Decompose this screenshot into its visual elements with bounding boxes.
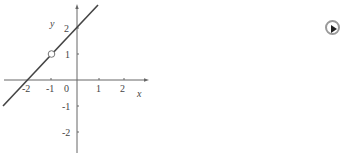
- y-tick-label: 1: [65, 49, 70, 60]
- y-tick-label: -1: [62, 101, 70, 112]
- x-tick-label: 1: [96, 83, 101, 94]
- x-tick-label: -1: [46, 83, 54, 94]
- play-button[interactable]: [325, 20, 340, 35]
- x-tick-label: 0: [64, 83, 69, 94]
- y-axis-arrow-icon: [75, 4, 78, 9]
- open-circle-point: [48, 51, 55, 58]
- y-tick-label: -2: [62, 127, 70, 138]
- y-tick-label: 2: [64, 23, 69, 34]
- y-axis-label: y: [49, 18, 55, 29]
- x-tick-label: 2: [120, 83, 125, 94]
- function-graph: -2 -1 0 1 2 x 2 1 -1 -2 y: [0, 0, 170, 153]
- x-axis-arrow-icon: [144, 78, 149, 81]
- x-axis-label: x: [136, 88, 142, 99]
- play-icon: [331, 25, 337, 33]
